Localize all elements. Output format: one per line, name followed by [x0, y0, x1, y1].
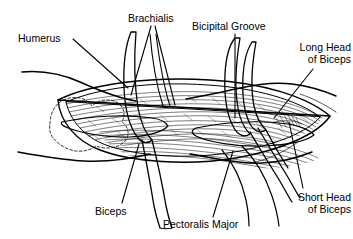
label-pectoralis-major: Pectoralis Major: [163, 219, 238, 231]
leader-biceps: [122, 144, 139, 203]
label-brachialis: Brachialis: [128, 13, 174, 25]
leader-humerus: [73, 39, 128, 88]
biceps-tendon-left-lower: [142, 140, 172, 229]
anatomy-figure: Humerus Brachialis Bicipital Groove Long…: [0, 0, 353, 239]
label-biceps: Biceps: [95, 206, 127, 218]
label-humerus: Humerus: [18, 33, 61, 45]
arm-outline-upper: [22, 71, 336, 101]
label-bicipital-groove: Bicipital Groove: [192, 21, 266, 33]
leader-brachialis-b: [155, 26, 175, 105]
label-short-head-of-biceps: Short Head of Biceps: [271, 192, 351, 215]
label-long-head-of-biceps: Long Head of Biceps: [271, 42, 351, 65]
leader-long-head: [274, 69, 313, 118]
